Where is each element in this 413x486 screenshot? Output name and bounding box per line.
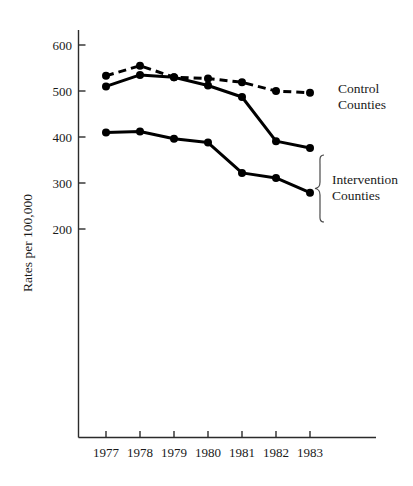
data-point [306,189,314,197]
data-point [238,78,246,86]
line-chart-canvas: 600 500 400 300 200 Rates per 100,000 19… [0,0,413,486]
y-tick-label-300: 300 [53,176,73,191]
control-label-line2: Counties [338,97,386,112]
data-point [170,135,178,143]
x-tick-label-1983: 1983 [297,445,323,460]
data-point [204,81,212,89]
intervention-annotation: Intervention Counties [315,155,398,222]
intervention-brace [315,155,324,222]
data-point [136,127,144,135]
data-point [170,73,178,81]
series-3 [102,127,314,196]
y-tick-marks [79,45,86,229]
x-tick-label-1982: 1982 [263,445,289,460]
data-point [102,82,110,90]
chart-figure: 600 500 400 300 200 Rates per 100,000 19… [0,0,413,486]
x-tick-label-1978: 1978 [127,445,153,460]
data-point [238,93,246,101]
y-tick-label-200: 200 [53,222,73,237]
data-point [102,128,110,136]
x-tick-label-1980: 1980 [195,445,221,460]
y-tick-label-500: 500 [53,84,73,99]
data-point [272,87,280,95]
x-tick-label-1981: 1981 [229,445,255,460]
series-1 [102,62,314,97]
y-tick-label-600: 600 [53,38,73,53]
data-point [136,71,144,79]
data-point [204,75,212,83]
data-point [272,174,280,182]
y-tick-label-400: 400 [53,130,73,145]
data-point [306,144,314,152]
data-point [238,169,246,177]
control-label-line1: Control [338,81,380,96]
data-point [204,139,212,147]
data-point [102,72,110,80]
x-tick-label-1979: 1979 [161,445,187,460]
x-tick-label-1977: 1977 [93,445,120,460]
data-point [272,137,280,145]
y-tick-labels: 600 500 400 300 200 [53,38,73,237]
intervention-label-line2: Counties [332,188,380,203]
intervention-label-line1: Intervention [332,172,398,187]
x-tick-marks [106,431,310,438]
data-series-layer [102,62,314,197]
x-tick-labels: 1977 1978 1979 1980 1981 1982 1983 [93,445,323,460]
data-point [306,89,314,97]
data-point [136,62,144,70]
y-axis-title: Rates per 100,000 [20,194,35,292]
control-annotation: Control Counties [338,81,386,112]
